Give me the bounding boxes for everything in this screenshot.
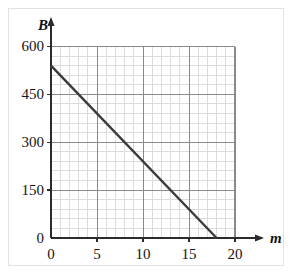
y-tick-label-150: 150 [22,183,45,198]
y-axis-label: B [38,18,48,33]
y-tick-label-450: 450 [22,87,45,102]
y-tick-label-300: 300 [22,135,45,150]
x-tick-label-0: 0 [31,247,71,262]
x-tick-label-10: 10 [123,247,163,262]
y-tick-label-0: 0 [37,231,45,246]
y-tick-label-600: 600 [22,39,45,54]
axes [47,17,264,242]
plot-area [0,0,294,278]
x-axis-label: m [270,231,282,246]
x-tick-label-5: 5 [77,247,117,262]
graph-figure: B m 0150300450600 05101520 [0,0,294,278]
axis-ticks [47,47,235,243]
x-tick-label-15: 15 [169,247,209,262]
x-tick-label-20: 20 [215,247,255,262]
